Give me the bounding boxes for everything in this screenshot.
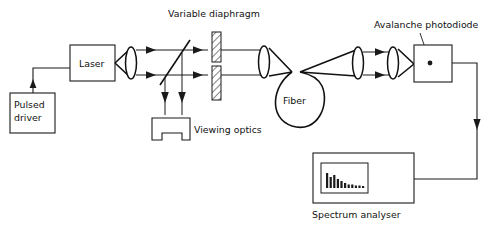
avalanche-photodiode-label: Avalanche photodiode	[374, 19, 479, 30]
spectrum-bar	[333, 175, 335, 188]
optical-setup-diagram: Pulsed driver Laser Viewing op	[0, 0, 493, 229]
diagram-canvas: Pulsed driver Laser Viewing op	[0, 0, 493, 229]
laser-block: Laser	[70, 45, 115, 81]
pulsed-driver-label-line1: Pulsed	[14, 99, 45, 110]
spectrum-bar	[358, 186, 360, 189]
spectrum-bar	[348, 185, 350, 189]
avalanche-photodiode-box	[414, 45, 452, 82]
pulsed-driver-block: Pulsed driver	[10, 93, 55, 133]
pulsed-driver-label-line2: driver	[14, 112, 42, 123]
lens-2	[259, 46, 270, 78]
spectrum-bar	[326, 173, 328, 188]
lens-4	[388, 47, 399, 79]
spectrum-bar	[362, 186, 364, 188]
spectrum-bar	[340, 181, 342, 188]
spectrum-bar	[337, 179, 339, 188]
lens-1	[126, 47, 137, 79]
viewing-optics-label: Viewing optics	[194, 124, 262, 135]
variable-diaphragm-label: Variable diaphragm	[168, 8, 260, 19]
canvas-background	[0, 0, 493, 229]
spectrum-bar	[351, 185, 353, 189]
laser-label: Laser	[79, 58, 105, 69]
diaphragm-blade-upper	[212, 32, 221, 62]
spectrum-analyser-group: Spectrum analyser	[312, 153, 414, 220]
lens-3	[353, 47, 364, 79]
fiber-label: Fiber	[283, 95, 306, 106]
spectrum-analyser-label: Spectrum analyser	[312, 209, 401, 220]
spectrum-bar	[355, 186, 357, 189]
diaphragm-blade-lower	[212, 66, 221, 100]
apd-active-area-dot	[428, 61, 433, 66]
spectrum-bar	[344, 183, 346, 188]
spectrum-bar	[330, 177, 332, 188]
